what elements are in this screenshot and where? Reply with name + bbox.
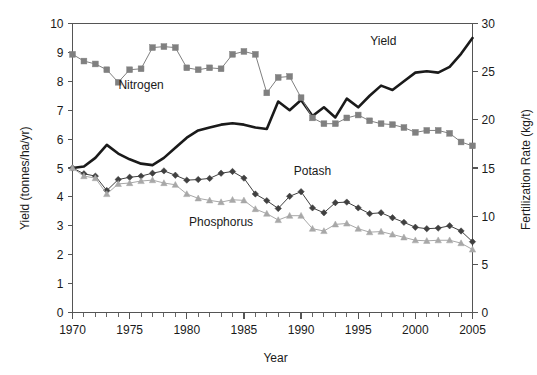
data-point-marker: [161, 168, 167, 174]
x-axis-tick-label: 1975: [116, 323, 143, 337]
y-axis-right-tick-label: 15: [482, 162, 496, 176]
data-point-marker: [218, 170, 224, 176]
data-point-marker: [412, 129, 418, 135]
series-line-potash: [73, 168, 473, 242]
data-point-marker: [184, 65, 190, 71]
data-point-marker: [287, 74, 293, 80]
data-point-marker: [344, 115, 350, 121]
data-point-marker: [195, 67, 201, 73]
data-point-marker: [150, 45, 156, 51]
data-point-marker: [172, 172, 178, 178]
y-axis-left-title: Yield (tonnes/ha/yr): [18, 126, 32, 230]
chart-tick-labels: 0123456789100510152025301970197519801985…: [50, 17, 495, 337]
series-label-phosphorus: Phosphorus: [189, 215, 253, 229]
y-axis-left-tick-label: 2: [57, 248, 64, 262]
data-point-marker: [389, 215, 395, 221]
data-point-marker: [207, 65, 213, 71]
data-point-marker: [264, 197, 270, 203]
series-nitrogen: [70, 44, 476, 149]
data-point-marker: [275, 75, 281, 81]
x-axis-tick-label: 2000: [402, 323, 429, 337]
data-point-marker: [435, 225, 441, 231]
data-point-marker: [241, 175, 247, 181]
series-label-potash: Potash: [294, 164, 331, 178]
data-point-marker: [366, 210, 372, 216]
data-point-marker: [344, 199, 350, 205]
y-axis-right-title: Fertilization Rate (kg/t): [519, 109, 533, 230]
data-point-marker: [469, 246, 475, 252]
y-axis-right-tick-label: 5: [482, 258, 489, 272]
data-point-marker: [184, 177, 190, 183]
y-axis-right-tick-label: 10: [482, 210, 496, 224]
data-point-marker: [70, 51, 76, 57]
data-point-marker: [412, 224, 418, 230]
data-point-marker: [310, 115, 316, 121]
data-point-marker: [355, 225, 361, 231]
series-yield: [73, 38, 473, 168]
data-point-marker: [470, 143, 476, 149]
data-point-marker: [252, 51, 258, 57]
data-point-marker: [161, 44, 167, 50]
data-point-marker: [195, 176, 201, 182]
data-point-marker: [172, 45, 178, 51]
series-line-yield: [73, 38, 473, 168]
y-axis-left-tick-label: 6: [57, 133, 64, 147]
data-point-marker: [424, 225, 430, 231]
data-point-marker: [252, 206, 258, 212]
data-point-marker: [81, 58, 87, 64]
y-axis-left-tick-label: 1: [57, 277, 64, 291]
x-axis-title: Year: [7, 351, 537, 365]
data-point-marker: [355, 205, 361, 211]
data-point-marker: [92, 61, 98, 67]
y-axis-left-tick-label: 10: [50, 17, 64, 31]
fertilization-yield-line-chart: YieldNitrogenPotashPhosphorus 0123456789…: [0, 0, 537, 375]
data-point-marker: [309, 205, 315, 211]
y-axis-right-tick-label: 20: [482, 113, 496, 127]
series-line-phosphorus: [73, 168, 473, 250]
data-point-marker: [264, 210, 270, 216]
series-potash: [69, 165, 475, 245]
series-label-nitrogen: Nitrogen: [118, 78, 163, 92]
y-axis-right-tick-label: 30: [482, 17, 496, 31]
data-point-marker: [367, 118, 373, 124]
data-point-marker: [218, 66, 224, 72]
y-axis-left-tick-label: 7: [57, 104, 64, 118]
data-point-marker: [332, 121, 338, 127]
data-point-marker: [264, 90, 270, 96]
data-point-marker: [401, 125, 407, 131]
y-axis-left-tick-label: 5: [57, 162, 64, 176]
chart-annotations: YieldNitrogenPotashPhosphorus: [118, 34, 396, 229]
data-point-marker: [298, 95, 304, 101]
data-point-marker: [252, 191, 258, 197]
data-point-marker: [149, 177, 155, 183]
chart-series: [69, 38, 475, 252]
y-axis-left-tick-label: 8: [57, 75, 64, 89]
x-axis-tick-label: 2005: [459, 323, 486, 337]
data-point-marker: [104, 67, 110, 73]
data-point-marker: [206, 175, 212, 181]
data-point-marker: [230, 51, 236, 57]
y-axis-left-tick-label: 9: [57, 46, 64, 60]
y-axis-right-tick-label: 0: [482, 306, 489, 320]
x-axis-tick-label: 1990: [288, 323, 315, 337]
chart-figure: YieldNitrogenPotashPhosphorus 0123456789…: [0, 0, 537, 375]
data-point-marker: [241, 49, 247, 55]
data-point-marker: [435, 128, 441, 134]
data-point-marker: [229, 168, 235, 174]
x-axis-tick-label: 1970: [59, 323, 86, 337]
data-point-marker: [378, 121, 384, 127]
data-point-marker: [127, 67, 133, 73]
data-point-marker: [298, 188, 304, 194]
data-point-marker: [321, 121, 327, 127]
x-axis-tick-label: 1980: [173, 323, 200, 337]
data-point-marker: [138, 66, 144, 72]
series-label-yield: Yield: [370, 34, 396, 48]
data-point-marker: [424, 128, 430, 134]
y-axis-left-tick-label: 0: [57, 306, 64, 320]
data-point-marker: [355, 112, 361, 118]
data-point-marker: [458, 139, 464, 145]
y-axis-left-tick-label: 4: [57, 190, 64, 204]
data-point-marker: [149, 170, 155, 176]
data-point-marker: [390, 122, 396, 128]
data-point-marker: [446, 223, 452, 229]
